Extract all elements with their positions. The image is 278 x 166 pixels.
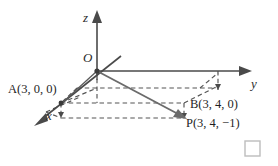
point-b-label: B(3, 4, 0): [190, 97, 238, 111]
geometry-figure: O z y x A(3, 0, 0) B(3, 4, 0) P(3, 4, −1…: [0, 0, 278, 166]
dashed-arrow-y-down: [215, 84, 221, 90]
point-a-dot: [59, 101, 64, 106]
vector-op-line: [97, 71, 180, 115]
dashed-left-edge-upper: [61, 88, 77, 103]
y-axis-label: y: [249, 76, 257, 91]
y-axis-arrow-icon: [239, 66, 252, 76]
end-of-proof-square-icon: [245, 141, 260, 156]
dashed-slant-rail-right: [200, 73, 218, 88]
coordinate-diagram-svg: O z y x A(3, 0, 0) B(3, 4, 0) P(3, 4, −1…: [0, 0, 278, 166]
z-axis-arrow-icon: [92, 10, 102, 23]
vector-op-group: [97, 71, 187, 119]
point-p-label: P(3, 4, −1): [186, 116, 240, 130]
segment-oa-group: [62, 71, 97, 103]
z-axis-label: z: [82, 10, 88, 25]
point-a-label: A(3, 0, 0): [8, 82, 57, 96]
origin-label: O: [83, 50, 93, 65]
dashed-arrow-a-down: [58, 112, 64, 118]
origin-dot: [94, 68, 99, 73]
x-axis-label: x: [45, 108, 52, 123]
segment-oa-line: [62, 71, 97, 103]
